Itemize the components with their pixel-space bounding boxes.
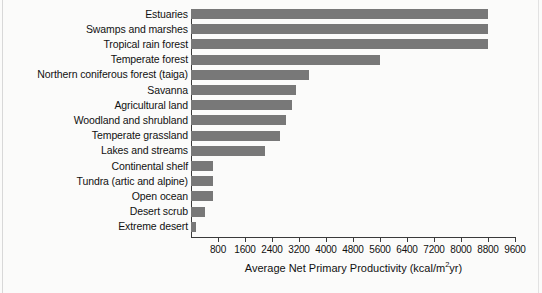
plot-area	[191, 9, 515, 237]
category-label: Estuaries	[0, 9, 188, 20]
x-tick-mark	[434, 238, 435, 242]
category-label: Continental shelf	[0, 161, 188, 172]
x-tick-mark	[326, 238, 327, 242]
x-tick-label: 4000	[315, 244, 336, 255]
bar	[191, 100, 292, 110]
x-tick-mark	[488, 238, 489, 242]
npp-bar-chart: EstuariesSwamps and marshesTropical rain…	[0, 0, 542, 293]
x-tick-mark	[407, 238, 408, 242]
x-tick-label: 1600	[234, 244, 255, 255]
bar	[191, 131, 280, 141]
x-tick-mark	[245, 238, 246, 242]
x-tick-mark	[218, 238, 219, 242]
bar	[191, 24, 488, 34]
category-label: Woodland and shrubland	[0, 115, 188, 126]
x-tick-label: 5600	[369, 244, 390, 255]
x-tick-label: 9600	[504, 244, 525, 255]
x-tick-label: 8000	[450, 244, 471, 255]
x-tick-mark	[461, 238, 462, 242]
x-tick-mark	[272, 238, 273, 242]
category-label: Agricultural land	[0, 100, 188, 111]
bar	[191, 222, 196, 232]
bar	[191, 207, 205, 217]
category-label: Extreme desert	[0, 221, 188, 232]
x-tick-mark	[515, 238, 516, 242]
bar	[191, 176, 213, 186]
bar	[191, 70, 309, 80]
x-axis-title-after: yr)	[449, 262, 462, 274]
x-tick-mark	[380, 238, 381, 242]
x-tick-label: 800	[210, 244, 226, 255]
x-tick-label: 8800	[477, 244, 498, 255]
x-tick-mark	[353, 238, 354, 242]
x-tick-label: 7200	[423, 244, 444, 255]
category-label: Temperate forest	[0, 54, 188, 65]
category-label: Northern coniferous forest (taiga)	[0, 69, 188, 80]
page-edge-artifact-right	[538, 0, 539, 293]
category-label: Savanna	[0, 85, 188, 96]
category-axis-labels: EstuariesSwamps and marshesTropical rain…	[0, 9, 188, 237]
category-label: Temperate grassland	[0, 130, 188, 141]
category-label: Open ocean	[0, 191, 188, 202]
bar	[191, 115, 286, 125]
bar	[191, 161, 213, 171]
bar	[191, 191, 213, 201]
x-tick-mark	[299, 238, 300, 242]
category-label: Swamps and marshes	[0, 24, 188, 35]
category-label: Lakes and streams	[0, 145, 188, 156]
x-tick-label: 2400	[261, 244, 282, 255]
x-tick-label: 3200	[288, 244, 309, 255]
bar	[191, 39, 488, 49]
bar	[191, 9, 488, 19]
x-axis-title-before: Average Net Primary Productivity (kcal/m	[245, 262, 445, 274]
category-label: Tropical rain forest	[0, 39, 188, 50]
category-label: Desert scrub	[0, 206, 188, 217]
bar	[191, 55, 380, 65]
bar	[191, 85, 296, 95]
x-axis-title: Average Net Primary Productivity (kcal/m…	[191, 262, 516, 275]
x-tick-label: 4800	[342, 244, 363, 255]
bar	[191, 146, 265, 156]
x-tick-label: 6400	[396, 244, 417, 255]
category-label: Tundra (artic and alpine)	[0, 176, 188, 187]
